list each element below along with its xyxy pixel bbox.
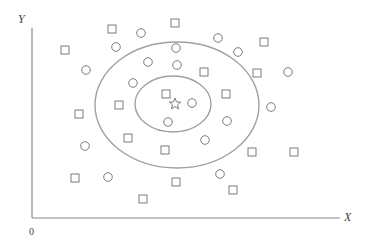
- circle-marker: [172, 44, 181, 53]
- circle-marker: [112, 43, 121, 52]
- circle-marker: [284, 68, 293, 77]
- star-icon: [169, 98, 180, 109]
- circle-marker: [137, 29, 146, 38]
- square-marker: [290, 148, 298, 156]
- square-marker: [200, 68, 208, 76]
- square-marker: [229, 186, 237, 194]
- square-marker: [71, 174, 79, 182]
- square-marker: [108, 25, 116, 33]
- circle-marker: [129, 79, 138, 88]
- circle-marker: [216, 170, 225, 179]
- square-marker: [75, 110, 83, 118]
- circle-marker: [223, 117, 232, 126]
- origin-label: 0: [29, 226, 34, 237]
- square-marker: [139, 195, 147, 203]
- square-marker: [248, 148, 256, 156]
- circle-marker: [173, 61, 182, 70]
- square-marker: [161, 146, 169, 154]
- square-marker: [115, 101, 123, 109]
- square-marker: [61, 46, 69, 54]
- circle-marker: [234, 48, 243, 57]
- x-axis-label: X: [344, 210, 351, 225]
- circle-marker: [82, 66, 91, 75]
- circle-marker: [104, 173, 113, 182]
- square-marker: [253, 69, 261, 77]
- square-marker: [222, 90, 230, 98]
- square-marker: [124, 134, 132, 142]
- circle-marker: [188, 99, 197, 108]
- circle-marker: [164, 118, 173, 127]
- y-axis-label: Y: [18, 12, 25, 27]
- circle-marker: [214, 34, 223, 43]
- square-marker: [260, 38, 268, 46]
- circle-marker: [144, 58, 153, 67]
- circle-marker: [81, 142, 90, 151]
- marker-group: [61, 19, 298, 203]
- circle-marker: [201, 136, 210, 145]
- scatter-diagram: [0, 0, 372, 245]
- square-marker: [171, 19, 179, 27]
- square-marker: [162, 90, 170, 98]
- circle-marker: [267, 103, 276, 112]
- square-marker: [172, 178, 180, 186]
